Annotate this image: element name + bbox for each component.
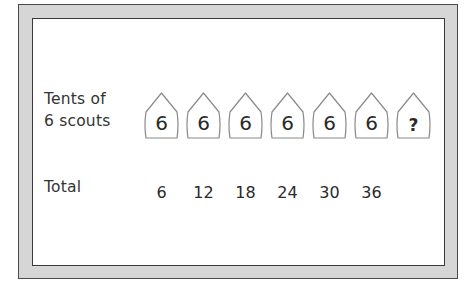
- total-value-empty: [394, 182, 433, 204]
- total-value: 30: [310, 182, 349, 204]
- tent-value: 6: [142, 112, 181, 134]
- tent-7-unknown: ?: [394, 92, 433, 140]
- total-value: 24: [268, 182, 307, 204]
- totals-row: 6 12 18 24 30 36: [142, 182, 433, 204]
- tent-value: 6: [310, 112, 349, 134]
- tent-value: 6: [268, 112, 307, 134]
- tent-1: 6: [142, 92, 181, 140]
- tent-value: 6: [184, 112, 223, 134]
- tents-row-label-line2: 6 scouts: [44, 110, 110, 132]
- total-value: 18: [226, 182, 265, 204]
- tent-4: 6: [268, 92, 307, 140]
- tent-6: 6: [352, 92, 391, 140]
- tent-3: 6: [226, 92, 265, 140]
- total-value: 6: [142, 182, 181, 204]
- total-value: 12: [184, 182, 223, 204]
- tents-row: 6 6 6 6 6 6 ?: [142, 92, 433, 142]
- tent-5: 6: [310, 92, 349, 140]
- question-mark: ?: [394, 114, 433, 136]
- tents-row-label-line1: Tents of: [44, 88, 110, 110]
- worksheet-panel: [32, 18, 445, 266]
- tent-2: 6: [184, 92, 223, 140]
- tents-row-label: Tents of 6 scouts: [44, 88, 110, 132]
- tent-value: 6: [352, 112, 391, 134]
- tent-value: 6: [226, 112, 265, 134]
- total-row-label: Total: [44, 176, 81, 198]
- total-value: 36: [352, 182, 391, 204]
